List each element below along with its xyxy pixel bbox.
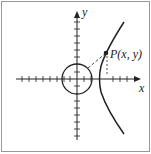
x-axis (16, 76, 141, 82)
y-axis-arrow-icon (74, 11, 80, 18)
point-p-label: P(x, y) (109, 47, 142, 61)
point-p (104, 51, 109, 56)
y-axis-label: y (81, 5, 88, 19)
diagram-canvas: P(x, y) y x (0, 0, 151, 154)
figure: P(x, y) y x (0, 0, 151, 154)
x-axis-label: x (138, 81, 145, 95)
y-axis (74, 11, 80, 140)
